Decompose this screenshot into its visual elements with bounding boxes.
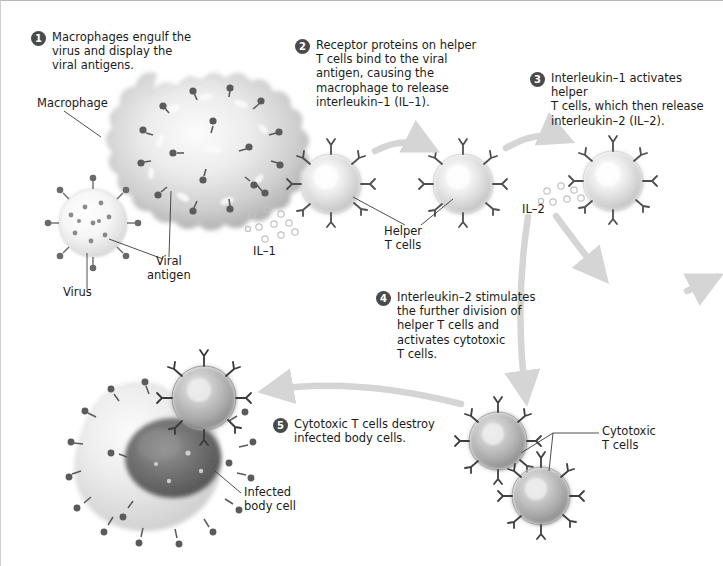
helper-t-cell-3	[569, 136, 657, 224]
virus-particle	[45, 175, 140, 270]
arrow-cytotoxic-to-body-cell	[265, 386, 461, 404]
arrow-il2-to-cytotoxic	[556, 216, 604, 278]
label-infected-body-cell: Infected body cell	[244, 486, 296, 513]
step-text-4: Interleukin–2 stimulates the further div…	[397, 290, 535, 361]
step-text-2: Receptor proteins on helper T cells bind…	[316, 38, 476, 109]
arrow-macrophage-to-helper-t	[375, 142, 433, 151]
macrophage-cell	[107, 73, 310, 230]
step-callout-2: 2 Receptor proteins on helper T cells bi…	[295, 38, 495, 109]
step-badge-3: 3	[530, 72, 545, 87]
label-cytotoxic-t-cells: Cytotoxic T cells	[602, 425, 656, 452]
step-badge-1: 1	[31, 31, 46, 46]
step-callout-5: 5 Cytotoxic T cells destroy infected bod…	[273, 417, 463, 445]
leader-helper-b	[421, 199, 453, 225]
step-badge-4: 4	[376, 291, 391, 306]
arrow-helper-t-to-step3	[506, 136, 568, 149]
label-il-2: IL–2	[522, 203, 545, 217]
label-virus: Virus	[63, 286, 92, 300]
label-il-1: IL–1	[253, 245, 276, 259]
step-callout-4: 4 Interleukin–2 stimulates the further d…	[376, 290, 561, 361]
step-text-1: Macrophages engulf the virus and display…	[52, 30, 191, 73]
leader-macrophage	[64, 111, 101, 137]
arrow-exit-right	[687, 277, 717, 291]
label-helper-t-cells: Helper T cells	[384, 225, 422, 252]
label-macrophage: Macrophage	[37, 97, 108, 111]
step-callout-3: 3 Interleukin–1 activates helper T cells…	[530, 71, 720, 128]
leader-cytotoxic-a	[521, 433, 599, 453]
step-text-5: Cytotoxic T cells destroy infected body …	[294, 417, 435, 445]
step-badge-2: 2	[295, 39, 310, 54]
step-callout-1: 1 Macrophages engulf the virus and displ…	[31, 30, 211, 73]
leader-cytotoxic-b	[549, 433, 553, 471]
helper-t-cell-2	[419, 139, 507, 227]
step-text-3: Interleukin–1 activates helper T cells, …	[551, 71, 720, 128]
diagram-canvas: 1 Macrophages engulf the virus and displ…	[0, 0, 723, 566]
label-viral-antigen: Viral antigen	[147, 255, 191, 282]
leader-infected-cell	[215, 471, 241, 493]
interleukin-2-molecules	[538, 183, 584, 205]
step-badge-5: 5	[273, 418, 288, 433]
